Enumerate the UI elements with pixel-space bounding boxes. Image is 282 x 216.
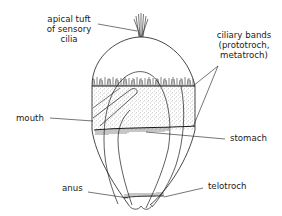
ciliary-bands-leader-1 bbox=[193, 66, 218, 86]
telotroch-leader bbox=[164, 188, 203, 197]
apical-tuft-leader bbox=[98, 24, 137, 31]
mouth-label: mouth bbox=[16, 113, 46, 123]
stomach-leader bbox=[146, 132, 225, 139]
episphere-outline bbox=[92, 37, 195, 86]
mouth-leader bbox=[50, 118, 93, 121]
telotroch-label: telotroch bbox=[208, 181, 258, 191]
apical-tuft-label: apical tuft of sensory cilia bbox=[40, 14, 98, 44]
ciliary-bands-label: ciliary bands (prototroch, metatroch) bbox=[209, 30, 279, 60]
ciliary-bands-leader-2 bbox=[193, 66, 218, 127]
apical-tuft-icon bbox=[134, 13, 148, 37]
prototroch-band bbox=[92, 77, 195, 86]
stomach-label: stomach bbox=[230, 133, 274, 143]
anus-label: anus bbox=[62, 183, 88, 193]
telotroch-band bbox=[124, 192, 164, 209]
